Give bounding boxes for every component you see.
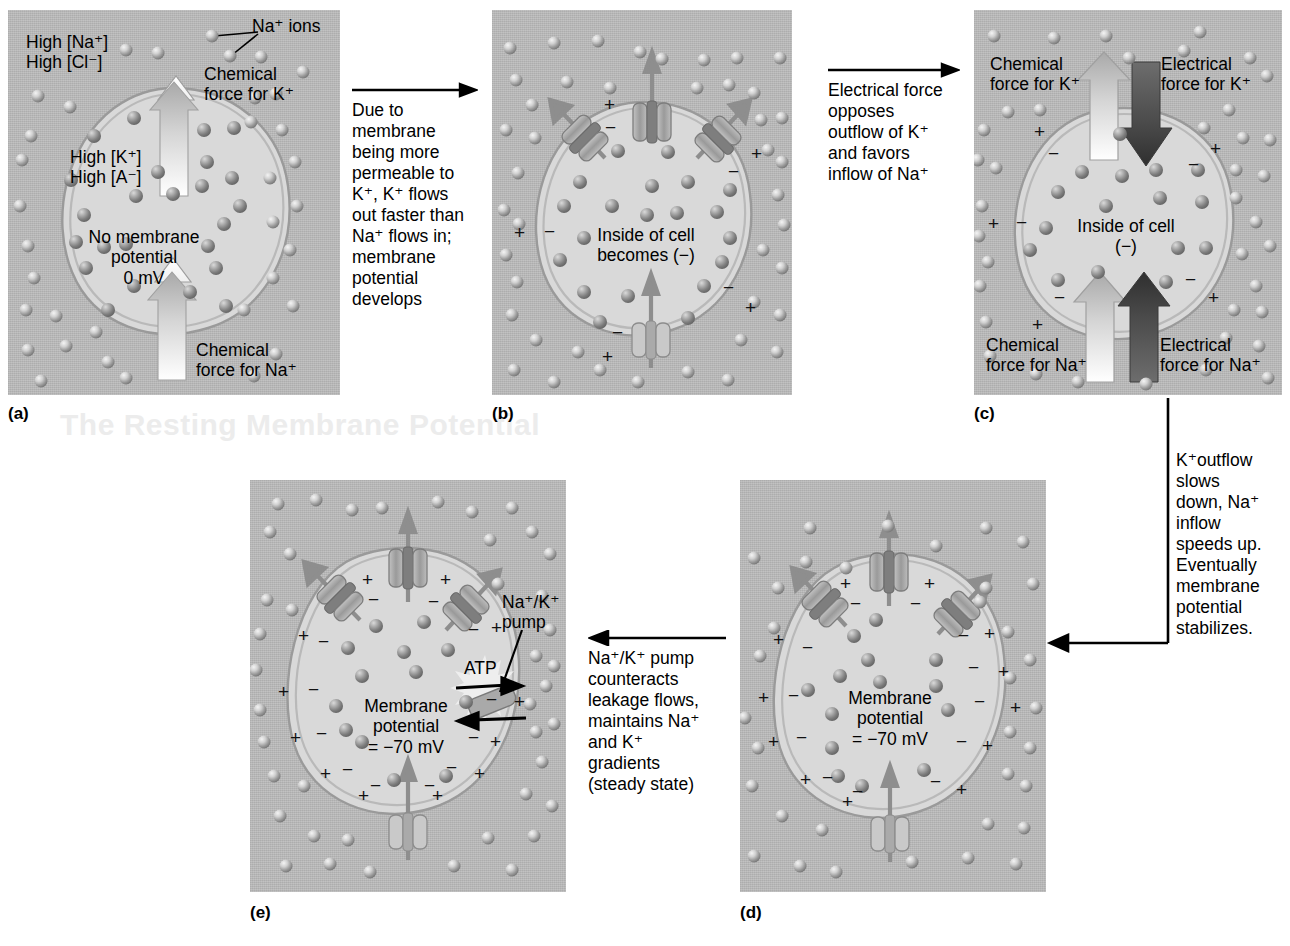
panel-e: Membrane potential = −70 mV Na⁺/K⁺ pump …: [250, 480, 566, 892]
panel-c-id: (c): [974, 404, 995, 424]
charge-plus: +: [358, 786, 369, 805]
charge-minus: −: [368, 590, 379, 609]
charge-minus: −: [342, 760, 353, 779]
charge-plus: +: [998, 662, 1009, 681]
charge-plus: +: [474, 764, 485, 783]
charge-plus: +: [1010, 698, 1021, 717]
panel-c-electrical-force-na-label: Electrical force for Na⁺: [1160, 335, 1261, 376]
transition-d-e-arrow: [588, 630, 728, 650]
charge-plus: +: [514, 692, 525, 711]
figure-canvas: The Resting Membrane Potential: [0, 0, 1290, 946]
charge-plus: +: [602, 347, 613, 366]
charge-minus: −: [318, 632, 329, 651]
panel-e-atp-label: ATP: [464, 658, 497, 678]
panel-c: Chemical force for K⁺ Electrical force f…: [974, 10, 1282, 395]
charge-minus: −: [605, 118, 616, 137]
panel-a-center-label: No membrane potential 0 mV: [64, 227, 224, 288]
panel-c-chemical-force-k-label: Chemical force for K⁺: [990, 54, 1080, 95]
charge-minus: −: [802, 638, 813, 657]
charge-minus: −: [723, 278, 734, 297]
charge-minus: −: [788, 686, 799, 705]
panel-e-pump-label: Na⁺/K⁺ pump: [502, 592, 559, 633]
charge-minus: −: [1016, 213, 1027, 232]
panel-a-outside-conc-label: High [Na⁺] High [Cl⁻]: [26, 32, 108, 73]
panel-d-center-label: Membrane potential = −70 mV: [822, 688, 958, 749]
charge-minus: −: [446, 758, 457, 777]
page-bleed-through: [600, 908, 609, 942]
charge-plus: +: [984, 624, 995, 643]
charge-minus: −: [486, 690, 497, 709]
transition-b-c-text: Electrical force opposes outflow of K⁺ a…: [828, 80, 968, 185]
charge-plus: +: [988, 214, 999, 233]
panel-c-chemical-force-na-label: Chemical force for Na⁺: [986, 335, 1087, 376]
charge-plus: +: [1034, 122, 1045, 141]
charge-plus: +: [1208, 288, 1219, 307]
charge-minus: −: [1188, 155, 1199, 174]
charge-plus: +: [758, 688, 769, 707]
charge-plus: +: [768, 732, 779, 751]
transition-a-b-arrow: [352, 82, 478, 102]
panel-d-id: (d): [740, 903, 762, 923]
charge-minus: −: [728, 162, 739, 181]
panel-e-center-label: Membrane potential = −70 mV: [338, 696, 474, 757]
charge-minus: −: [544, 222, 555, 241]
charge-minus: −: [428, 592, 439, 611]
charge-minus: −: [968, 658, 979, 677]
charge-minus: −: [1054, 288, 1065, 307]
charge-plus: +: [982, 736, 993, 755]
transition-d-e-text: Na⁺/K⁺ pump counteracts leakage flows, m…: [588, 648, 728, 795]
charge-plus: +: [440, 570, 451, 589]
charge-minus: −: [424, 776, 435, 795]
charge-minus: −: [974, 692, 985, 711]
charge-plus: +: [751, 144, 762, 163]
charge-minus: −: [316, 724, 327, 743]
charge-plus: +: [278, 682, 289, 701]
transition-b-c-arrow: [828, 62, 960, 82]
charge-minus: −: [910, 594, 921, 613]
panel-b-id: (b): [492, 404, 514, 424]
charge-minus: −: [796, 728, 807, 747]
panel-a: High [Na⁺] High [Cl⁻] High [K⁺] High [A⁻…: [8, 10, 340, 395]
charge-minus: −: [850, 594, 861, 613]
panel-a-chemical-force-k-label: Chemical force for K⁺: [204, 64, 294, 105]
charge-plus: +: [290, 728, 301, 747]
panel-c-electrical-force-k-label: Electrical force for K⁺: [1161, 54, 1251, 95]
panel-a-na-ions-callout: Na⁺ ions: [252, 16, 321, 36]
charge-plus: +: [800, 770, 811, 789]
panel-a-chemical-force-na-label: Chemical force for Na⁺: [196, 340, 297, 381]
transition-c-d-text: K⁺outflow slows down, Na⁺ inflow speeds …: [1176, 450, 1290, 639]
charge-minus: −: [1185, 270, 1196, 289]
charge-plus: +: [840, 574, 851, 593]
panel-a-id: (a): [8, 404, 29, 424]
charge-plus: +: [1032, 315, 1043, 334]
charge-plus: +: [298, 626, 309, 645]
panel-c-center-label: Inside of cell (−): [1064, 216, 1188, 257]
charge-minus: −: [1048, 144, 1059, 163]
charge-plus: +: [491, 618, 502, 637]
charge-plus: +: [362, 570, 373, 589]
charge-minus: −: [956, 732, 967, 751]
charge-minus: −: [370, 776, 381, 795]
charge-minus: −: [822, 768, 833, 787]
charge-plus: +: [604, 95, 615, 114]
charge-plus: +: [1210, 139, 1221, 158]
panel-e-id: (e): [250, 903, 271, 923]
panel-d: Membrane potential = −70 mV + + + + + + …: [740, 480, 1046, 892]
transition-a-b-text: Due to membrane being more permeable to …: [352, 100, 482, 310]
charge-plus: +: [745, 298, 756, 317]
page-bleed-through: The Resting Membrane Potential: [60, 408, 540, 442]
charge-plus: +: [514, 223, 525, 242]
charge-minus: −: [468, 620, 479, 639]
charge-plus: +: [773, 630, 784, 649]
charge-minus: −: [308, 680, 319, 699]
charge-minus: −: [468, 728, 479, 747]
charge-plus: +: [490, 732, 501, 751]
charge-minus: −: [612, 323, 623, 342]
charge-plus: +: [320, 764, 331, 783]
transition-c-d-connector: [1046, 398, 1186, 662]
panel-b-center-label: Inside of cell becomes (−): [578, 225, 714, 266]
charge-minus: −: [930, 772, 941, 791]
charge-minus: −: [958, 626, 969, 645]
charge-minus: −: [852, 782, 863, 801]
panel-a-inside-conc-label: High [K⁺] High [A⁻]: [70, 147, 142, 188]
